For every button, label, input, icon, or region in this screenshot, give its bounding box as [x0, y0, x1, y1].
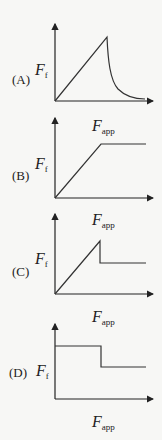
panel-b: Fapp (B) Ff — [12, 117, 153, 198]
panel-d: Fapp (D) Ff Fapp — [9, 308, 153, 432]
x-axis-label-a: Fapp — [91, 117, 115, 136]
y-axis-label-a: Ff — [34, 61, 48, 80]
option-label-c: (C) — [12, 264, 29, 279]
panel-a: (A) Ff — [12, 24, 153, 101]
y-axis-label-b: Ff — [34, 155, 48, 174]
x-axis-label-c: Fapp — [91, 308, 115, 327]
panel-c: Fapp (C) Ff — [12, 211, 153, 294]
curve-b — [55, 144, 146, 198]
friction-graphs-figure: (A) Ff Fapp (B) Ff Fapp (C) Ff Fapp (D) … — [0, 0, 162, 440]
x-axis-label-b: Fapp — [91, 211, 115, 230]
option-label-d: (D) — [9, 365, 27, 380]
option-label-a: (A) — [12, 72, 30, 87]
curve-c — [55, 241, 146, 294]
option-label-b: (B) — [12, 168, 29, 183]
curve-d — [55, 346, 146, 367]
curve-a — [55, 37, 145, 101]
x-axis-label-d: Fapp — [91, 413, 115, 432]
y-axis-label-c: Ff — [34, 250, 48, 269]
y-axis-label-d: Ff — [35, 362, 49, 381]
